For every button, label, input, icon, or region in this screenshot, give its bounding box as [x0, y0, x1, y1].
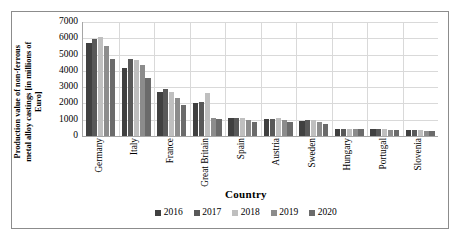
bar	[406, 130, 411, 136]
legend-item-2020[interactable]: 2020	[309, 208, 337, 218]
bar	[140, 65, 145, 136]
bar-group	[119, 22, 155, 136]
bar	[382, 129, 387, 136]
bar	[429, 131, 434, 136]
legend-swatch-icon	[232, 210, 238, 216]
bar	[246, 120, 251, 136]
bar	[276, 118, 281, 136]
bar	[341, 129, 346, 136]
y-axis-tick-6000: 6000	[59, 34, 78, 44]
bar	[311, 120, 316, 136]
bar	[412, 130, 417, 136]
legend-swatch-icon	[194, 210, 200, 216]
y-axis-tick-4000: 4000	[59, 66, 78, 76]
legend-item-2016[interactable]: 2016	[155, 208, 183, 218]
legend-label: 2020	[318, 208, 337, 218]
x-axis-tick-cell: Spain	[224, 138, 260, 194]
x-axis-tick-cell: Slovenia	[402, 138, 438, 194]
bar	[234, 118, 239, 136]
chart-container: Production value of non-ferrous metal al…	[11, 11, 449, 229]
bar	[228, 118, 233, 136]
bar	[205, 93, 210, 136]
y-axis-title-line-3: Euro]	[34, 42, 45, 162]
bar	[175, 98, 180, 136]
bar	[317, 122, 322, 136]
legend-swatch-icon	[155, 210, 161, 216]
bar	[424, 131, 429, 136]
legend-label: 2018	[241, 208, 260, 218]
bar	[358, 129, 363, 136]
x-axis-tick-portugal: Portugal	[379, 138, 388, 170]
x-axis-tick-hungary: Hungary	[344, 138, 353, 171]
bar	[418, 130, 423, 136]
y-axis-title-line-1: Production value of non-ferrous	[13, 42, 24, 162]
legend-item-2017[interactable]: 2017	[194, 208, 222, 218]
x-axis-tick-cell: France	[153, 138, 189, 194]
x-axis-title: Country	[48, 188, 444, 200]
bar	[211, 118, 216, 136]
x-axis-tick-france: France	[166, 138, 175, 163]
bar-group	[225, 22, 261, 136]
bar	[394, 130, 399, 136]
legend-label: 2016	[164, 208, 183, 218]
bar-groups	[83, 22, 438, 136]
y-axis-tick-3000: 3000	[59, 82, 78, 92]
bar	[305, 120, 310, 136]
bar	[86, 43, 91, 136]
x-axis-tick-cell: Hungary	[331, 138, 367, 194]
bar	[92, 39, 97, 136]
x-axis-tick-italy: Italy	[131, 138, 140, 155]
bar	[181, 105, 186, 136]
bar	[199, 102, 204, 136]
bar-group	[83, 22, 119, 136]
bar	[264, 119, 269, 136]
bar	[370, 129, 375, 136]
y-axis-tick-7000: 7000	[59, 17, 78, 27]
x-axis-tick-cell: Austria	[260, 138, 296, 194]
bar-group	[332, 22, 368, 136]
legend-label: 2017	[202, 208, 221, 218]
bar	[270, 119, 275, 136]
x-axis-tick-slovenia: Slovenia	[415, 138, 424, 171]
bar-group	[367, 22, 403, 136]
legend-swatch-icon	[271, 210, 277, 216]
bar	[157, 92, 162, 136]
bar	[98, 37, 103, 136]
bar-group	[403, 22, 439, 136]
x-axis-tick-great-britain: Great Britain	[202, 138, 211, 187]
y-axis-tick-5000: 5000	[59, 50, 78, 60]
bar	[388, 130, 393, 136]
legend-item-2019[interactable]: 2019	[271, 208, 299, 218]
y-axis-tick-labels: 01000200030004000500060007000	[48, 16, 80, 136]
bar-group	[154, 22, 190, 136]
bar	[323, 124, 328, 136]
bar	[122, 68, 127, 136]
y-axis-title: Production value of non-ferrous metal al…	[14, 16, 44, 188]
y-axis-tick-1000: 1000	[59, 115, 78, 125]
bar	[252, 122, 257, 136]
x-axis-tick-labels: GermanyItalyFranceGreat BritainSpainAust…	[82, 138, 437, 194]
x-axis-tick-spain: Spain	[237, 138, 246, 159]
bar	[335, 129, 340, 136]
x-axis-tick-cell: Great Britain	[189, 138, 225, 194]
bar	[353, 129, 358, 136]
x-axis-tick-cell: Germany	[82, 138, 118, 194]
x-axis-tick-cell: Sweden	[295, 138, 331, 194]
y-axis-tick-2000: 2000	[59, 99, 78, 109]
plot-area	[82, 22, 438, 137]
bar	[347, 129, 352, 136]
bar	[376, 129, 381, 136]
bar-group	[296, 22, 332, 136]
x-axis-tick-cell: Portugal	[366, 138, 402, 194]
y-axis-tick-0: 0	[73, 131, 78, 141]
bar	[163, 89, 168, 136]
bar	[169, 92, 174, 136]
bar	[240, 118, 245, 136]
legend-label: 2019	[279, 208, 298, 218]
legend-item-2018[interactable]: 2018	[232, 208, 260, 218]
bar	[110, 59, 115, 136]
bar	[128, 59, 133, 136]
bar	[104, 46, 109, 136]
x-axis-tick-sweden: Sweden	[308, 138, 317, 167]
bar	[145, 78, 150, 136]
